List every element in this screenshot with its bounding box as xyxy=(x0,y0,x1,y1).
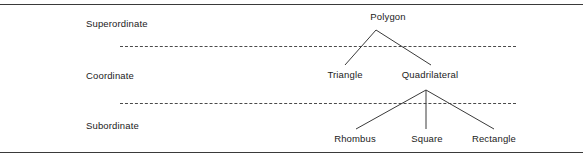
node-rectangle: Rectangle xyxy=(472,133,516,144)
level-label-coordinate: Coordinate xyxy=(86,70,134,81)
divider-superordinate-coordinate xyxy=(120,46,516,47)
node-polygon: Polygon xyxy=(370,11,405,22)
edge-polygon-quadrilateral xyxy=(376,30,431,65)
edge-quadrilateral-rectangle xyxy=(426,90,494,129)
edge-polygon-triangle xyxy=(345,30,376,65)
bottom-rule xyxy=(0,152,583,153)
hierarchy-diagram: Superordinate Coordinate Subordinate Pol… xyxy=(0,0,583,160)
node-quadrilateral: Quadrilateral xyxy=(402,69,458,80)
top-rule xyxy=(0,4,583,5)
node-square: Square xyxy=(411,133,443,144)
node-triangle: Triangle xyxy=(327,69,362,80)
node-rhombus: Rhombus xyxy=(334,133,376,144)
edge-quadrilateral-rhombus xyxy=(356,90,426,129)
divider-coordinate-subordinate xyxy=(120,103,516,104)
level-label-superordinate: Superordinate xyxy=(86,18,148,29)
level-label-subordinate: Subordinate xyxy=(86,120,139,131)
